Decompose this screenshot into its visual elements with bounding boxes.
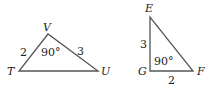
angle-v-label: 90° <box>41 46 61 59</box>
triangle-tuv: V T U 2 3 90° <box>7 21 111 78</box>
vertex-u-label: U <box>101 65 111 78</box>
side-eg-label: 3 <box>140 38 147 51</box>
side-gf-label: 2 <box>168 74 175 87</box>
side-tv-label: 2 <box>20 46 27 59</box>
vertex-e-label: E <box>144 2 153 15</box>
triangle-efg: E G F 3 2 90° <box>138 2 205 87</box>
vertex-v-label: V <box>43 21 52 34</box>
vertex-f-label: F <box>196 65 205 78</box>
angle-g-label: 90° <box>154 55 174 68</box>
vertex-g-label: G <box>138 65 147 78</box>
diagram: V T U 2 3 90° E G F 3 2 90° <box>0 0 213 87</box>
vertex-t-label: T <box>7 65 16 78</box>
side-vu-label: 3 <box>77 45 84 58</box>
